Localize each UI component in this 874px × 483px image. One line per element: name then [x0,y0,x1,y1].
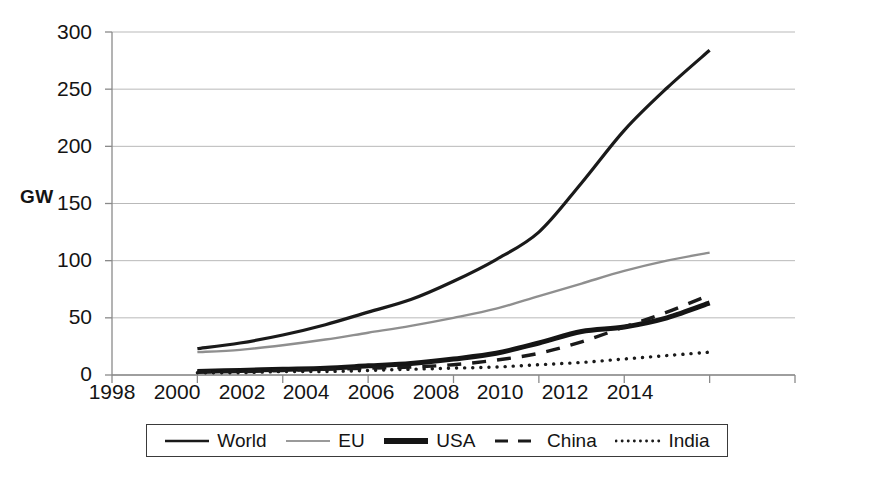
legend-swatch-eu [285,435,331,447]
legend-item-eu[interactable]: EU [285,430,364,452]
legend-swatch-china [494,435,540,447]
chart-legend: World EU USA China India [146,424,728,457]
legend-swatch-india [615,435,661,447]
line-chart: GW 300 250 200 150 100 50 0 1998 2000 20… [0,0,874,483]
plot-area [0,0,874,483]
legend-swatch-world [164,435,210,447]
legend-item-china[interactable]: China [494,430,597,452]
legend-item-india[interactable]: India [615,430,709,452]
legend-label-china: China [547,430,597,452]
legend-label-usa: USA [436,430,475,452]
legend-label-eu: EU [338,430,364,452]
legend-label-world: World [217,430,266,452]
axis-ticks [105,32,795,383]
gridlines [112,32,795,375]
legend-swatch-usa [383,435,429,447]
series-line-world [197,50,709,348]
legend-item-world[interactable]: World [164,430,266,452]
legend-item-usa[interactable]: USA [383,430,475,452]
legend-label-india: India [668,430,709,452]
data-series-group [197,50,709,373]
